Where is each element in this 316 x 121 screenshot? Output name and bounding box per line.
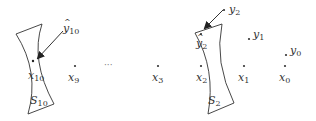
dot-x2 [200,65,202,67]
dot-y2 [223,9,225,11]
hat-yhat10: ^ [64,17,71,26]
label-s2: S2 [208,94,221,108]
dot-x9 [74,65,76,67]
label-x9: x9 [68,71,79,85]
label-x0: x0 [279,71,290,85]
label-y2: y2 [228,3,240,17]
label-x2: x2 [196,71,207,85]
label-x1: x1 [238,71,249,85]
dot-x10 [32,60,34,62]
dot-y0 [285,54,287,56]
arrow-y2-to-yhat2 [205,10,223,28]
label-y1: y1 [252,28,264,42]
label-x10: x10 [28,69,44,83]
arrow-yhat10-to-x10 [38,31,63,58]
ellipsis: ··· [104,60,113,70]
label-x3: x3 [152,71,163,85]
dot-x1 [243,65,245,67]
dot-x3 [157,65,159,67]
diagram-canvas: y10 ^ x10 x9 ··· x3 x2 x1 x0 y2 y1 y0 y2… [0,0,316,121]
label-s10: S10 [30,94,48,108]
dot-x0 [284,65,286,67]
hat-yhat2: ^ [197,32,204,41]
label-y0: y0 [289,44,301,58]
dot-y1 [248,38,250,40]
